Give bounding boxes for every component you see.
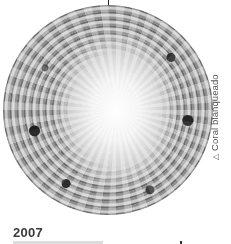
year-label: 2007 (13, 225, 43, 240)
caption-text: Coral blanqueado (209, 74, 220, 151)
photo-caption: △Coral blanqueado (209, 74, 220, 160)
coral-photo (3, 5, 213, 215)
coral-texture (3, 5, 213, 215)
triangle-icon: △ (211, 154, 220, 160)
